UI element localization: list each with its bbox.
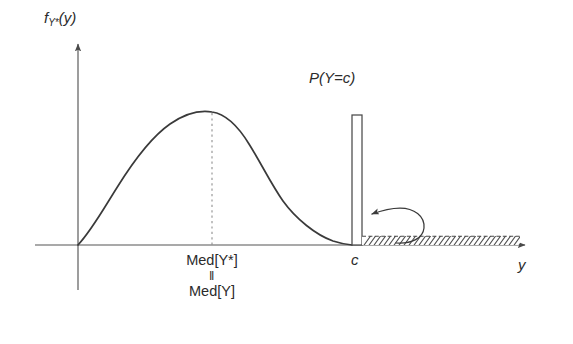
y-axis-label-subscript: Y* — [48, 17, 59, 28]
x-axis-label: y — [518, 257, 526, 273]
median-latent-label: Med[Y*] — [186, 253, 238, 268]
density-curve — [78, 111, 352, 245]
point-mass-probability-label: P(Y=c) — [309, 70, 355, 86]
median-observed-label: Med[Y] — [186, 284, 238, 299]
y-axis-label-argument: (y) — [59, 9, 77, 26]
censored-hatched-region — [362, 234, 527, 248]
density-figure-canvas — [0, 0, 573, 344]
censoring-threshold-label: c — [351, 252, 359, 268]
figure-container: fY*(y) P(Y=c) c y Med[Y*] ‖ Med[Y] — [0, 0, 573, 344]
median-equality-label: Med[Y*] ‖ Med[Y] — [186, 253, 238, 299]
point-mass-spike — [352, 115, 362, 245]
median-equals-symbol: ‖ — [186, 269, 238, 283]
y-axis-label: fY*(y) — [44, 10, 76, 28]
